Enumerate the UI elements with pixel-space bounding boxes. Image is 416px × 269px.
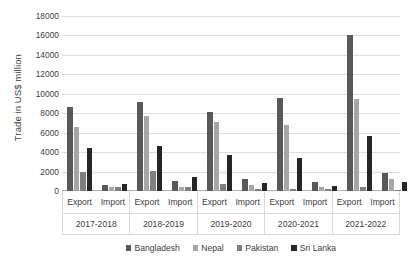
bar [262, 183, 268, 191]
plot-area [62, 16, 400, 191]
bar-group-export [272, 16, 307, 191]
bar-group-export [342, 16, 377, 191]
bar [192, 177, 198, 191]
bar-group-import [97, 16, 132, 191]
bar [354, 99, 360, 191]
category-label-import: Import [366, 191, 399, 213]
legend-swatch-icon [193, 245, 199, 251]
bar [220, 184, 226, 191]
bar [122, 184, 128, 191]
category-label-year: 2017-2018 [63, 214, 130, 234]
bar [150, 171, 156, 191]
bar [74, 127, 80, 191]
bar-group-import [307, 16, 342, 191]
year-group [272, 16, 342, 191]
bar-group-export [202, 16, 237, 191]
category-direction-group: ExportImport [333, 191, 399, 213]
legend-item[interactable]: Pakistan [237, 243, 278, 253]
legend-item[interactable]: Nepal [193, 243, 224, 253]
bar [87, 148, 93, 191]
bar [157, 146, 163, 191]
category-label-year: 2021-2022 [333, 214, 399, 234]
legend-item[interactable]: Sri Lanka [291, 243, 336, 253]
legend: BangladeshNepalPakistanSri Lanka [62, 240, 400, 256]
bar [80, 172, 86, 191]
y-axis-title-label: Trade in US$ million [12, 54, 23, 141]
category-direction-group: ExportImport [130, 191, 197, 213]
category-direction-group: ExportImport [198, 191, 265, 213]
category-label-export: Export [265, 191, 298, 213]
bar-chart: Trade in US$ million 1800016000140001200… [0, 0, 416, 269]
category-label-year: 2020-2021 [265, 214, 332, 234]
legend-label: Nepal [201, 243, 223, 253]
bar [367, 136, 373, 191]
category-label-import: Import [298, 191, 331, 213]
bar-group-export [62, 16, 97, 191]
category-label-year: 2019-2020 [198, 214, 265, 234]
y-axis-tick: 18000 [24, 11, 59, 21]
bar [382, 173, 388, 191]
y-axis-title: Trade in US$ million [9, 0, 25, 196]
bar [284, 125, 290, 191]
bar [227, 155, 233, 191]
category-label-import: Import [164, 191, 197, 213]
bar [214, 122, 220, 191]
y-axis-tick: 6000 [24, 128, 59, 138]
category-label-year: 2018-2019 [130, 214, 197, 234]
legend-swatch-icon [291, 245, 297, 251]
y-axis-tick-labels: 1800016000140001200010000800060004000200… [24, 16, 59, 191]
category-label-export: Export [333, 191, 366, 213]
legend-item[interactable]: Bangladesh [126, 243, 180, 253]
category-label-import: Import [231, 191, 264, 213]
bar [172, 181, 178, 191]
year-group [202, 16, 272, 191]
legend-swatch-icon [126, 245, 132, 251]
bar-group-import [377, 16, 412, 191]
bar [277, 98, 283, 191]
bar [297, 158, 303, 191]
y-axis-tick: 8000 [24, 108, 59, 118]
category-label-export: Export [198, 191, 231, 213]
category-axis-direction-row: ExportImportExportImportExportImportExpo… [63, 191, 399, 213]
category-direction-group: ExportImport [265, 191, 332, 213]
y-axis-tick: 0 [24, 186, 59, 196]
bar-group-import [237, 16, 272, 191]
bar [67, 107, 73, 191]
year-group [62, 16, 132, 191]
bar [242, 179, 248, 191]
bar [389, 179, 395, 191]
bars-layer [62, 16, 400, 191]
legend-label: Sri Lanka [300, 243, 336, 253]
category-label-export: Export [63, 191, 96, 213]
legend-swatch-icon [237, 245, 243, 251]
bar [207, 112, 213, 191]
bar-group-export [132, 16, 167, 191]
legend-label: Bangladesh [134, 243, 179, 253]
y-axis-tick: 12000 [24, 69, 59, 79]
bar [144, 116, 150, 191]
category-label-import: Import [96, 191, 129, 213]
category-label-export: Export [130, 191, 163, 213]
year-group [132, 16, 202, 191]
bar-group-import [167, 16, 202, 191]
category-axis: ExportImportExportImportExportImportExpo… [62, 191, 400, 235]
legend-label: Pakistan [245, 243, 278, 253]
y-axis-tick: 16000 [24, 30, 59, 40]
category-direction-group: ExportImport [63, 191, 130, 213]
y-axis-tick: 2000 [24, 167, 59, 177]
y-axis-tick: 4000 [24, 147, 59, 157]
y-axis-tick: 14000 [24, 50, 59, 60]
y-axis-tick: 10000 [24, 89, 59, 99]
year-group [342, 16, 412, 191]
bar [402, 182, 408, 191]
bar [347, 35, 353, 191]
category-axis-year-row: 2017-20182018-20192019-20202020-20212021… [63, 213, 399, 234]
bar [137, 102, 143, 191]
bar [312, 182, 318, 191]
